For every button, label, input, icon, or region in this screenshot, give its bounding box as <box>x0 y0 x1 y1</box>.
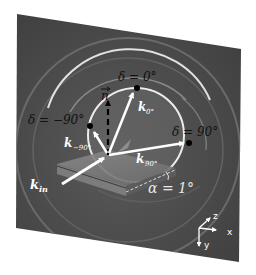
alpha-label: α = 1° <box>148 180 194 196</box>
axis-z-label: z <box>213 211 218 221</box>
delta-0-dot <box>134 85 140 91</box>
delta-neg90-dot <box>87 123 93 129</box>
svg-text:k: k <box>30 177 39 192</box>
delta-90-dot <box>186 140 192 146</box>
normal-label: n <box>101 87 110 103</box>
svg-text:0°: 0° <box>146 108 154 116</box>
axis-y-label: y <box>204 240 210 250</box>
delta-neg90-label: δ = −90° <box>28 113 84 127</box>
diffraction-diagram: δ = 0° δ = −90° δ = 90° n k 0° k −90° k … <box>0 0 256 275</box>
svg-text:90°: 90° <box>145 160 157 168</box>
svg-text:in: in <box>39 184 48 194</box>
svg-text:k: k <box>64 136 72 150</box>
svg-text:k: k <box>136 152 144 166</box>
svg-text:−90°: −90° <box>73 144 91 152</box>
delta-0-label: δ = 0° <box>118 70 157 84</box>
axis-x-label: x <box>227 227 233 237</box>
delta-90-label: δ = 90° <box>172 125 218 139</box>
